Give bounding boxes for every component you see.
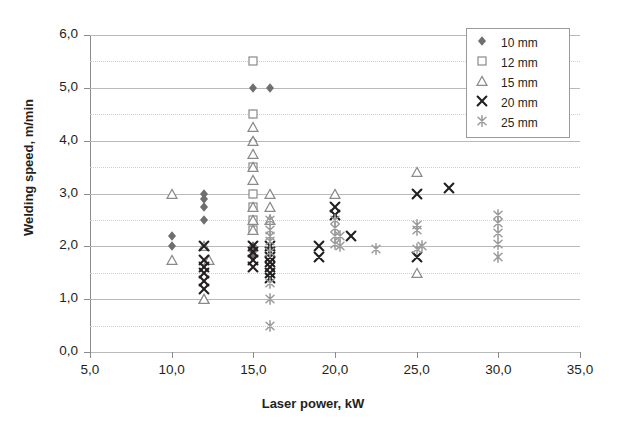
filled-diamond-icon: [475, 34, 495, 52]
x-tick-label: 30,0: [468, 362, 528, 377]
x-tick-mark: [253, 352, 254, 358]
x-tick-mark: [498, 352, 499, 358]
data-point: [202, 253, 216, 267]
asterisk-icon: [475, 114, 495, 132]
legend-item-label: 10 mm: [495, 36, 538, 50]
legend-item-label: 12 mm: [495, 56, 538, 70]
cross-x-icon: [475, 94, 495, 112]
gridline-major: [90, 141, 580, 142]
data-point: [197, 282, 211, 296]
y-axis-title: Welding speed, m/min: [21, 18, 36, 318]
data-point: [263, 229, 277, 243]
gridline-minor: [90, 273, 580, 274]
data-point: [410, 223, 424, 237]
y-tick-label: 2,0: [38, 237, 78, 252]
data-point: [263, 200, 277, 214]
data-point: [246, 223, 260, 237]
x-tick-label: 20,0: [305, 362, 365, 377]
legend-item: 10 mm: [467, 33, 569, 53]
data-point: [197, 200, 211, 214]
data-point: [328, 200, 342, 214]
y-tick-mark: [84, 194, 90, 195]
y-tick-label: 4,0: [38, 132, 78, 147]
gridline-major: [90, 194, 580, 195]
y-tick-mark: [84, 35, 90, 36]
data-point: [333, 229, 347, 243]
gridline-major: [90, 299, 580, 300]
gridline-major: [90, 246, 580, 247]
open-triangle-icon: [475, 74, 495, 92]
open-square-icon: [475, 54, 495, 72]
data-point: [165, 253, 179, 267]
data-point: [410, 250, 424, 264]
data-point: [246, 250, 260, 264]
data-point: [328, 229, 342, 243]
y-tick-label: 6,0: [38, 26, 78, 41]
data-point: [344, 229, 358, 243]
data-point: [197, 274, 211, 288]
y-tick-mark: [84, 88, 90, 89]
legend-item-label: 15 mm: [495, 76, 538, 90]
data-point: [328, 221, 342, 235]
x-tick-label: 25,0: [387, 362, 447, 377]
data-point: [312, 250, 326, 264]
scatter-chart: 0,01,02,03,04,05,06,0 5,010,015,020,025,…: [0, 0, 626, 429]
data-point: [165, 229, 179, 243]
legend-item: 20 mm: [467, 93, 569, 113]
data-point: [246, 147, 260, 161]
data-point: [369, 242, 383, 256]
x-tick-label: 5,0: [60, 362, 120, 377]
x-tick-mark: [580, 352, 581, 358]
gridline-minor: [90, 167, 580, 168]
x-tick-label: 15,0: [223, 362, 283, 377]
data-point: [491, 237, 505, 251]
x-axis-title: Laser power, kW: [0, 396, 626, 411]
x-tick-label: 35,0: [550, 362, 610, 377]
legend-item: 12 mm: [467, 53, 569, 73]
x-tick-label: 10,0: [142, 362, 202, 377]
data-point: [263, 250, 277, 264]
data-point: [246, 253, 260, 267]
x-tick-mark: [335, 352, 336, 358]
y-tick-label: 3,0: [38, 185, 78, 200]
data-point: [246, 200, 260, 214]
data-point: [328, 237, 342, 251]
data-point: [491, 226, 505, 240]
y-tick-label: 0,0: [38, 343, 78, 358]
legend-item: 15 mm: [467, 73, 569, 93]
data-point: [246, 223, 260, 237]
legend-item-label: 20 mm: [495, 96, 538, 110]
x-tick-mark: [417, 352, 418, 358]
data-point: [410, 242, 424, 256]
y-tick-label: 1,0: [38, 290, 78, 305]
legend-item-label: 25 mm: [495, 116, 538, 130]
legend-item: 25 mm: [467, 113, 569, 133]
y-tick-mark: [84, 246, 90, 247]
data-point: [263, 255, 277, 269]
x-tick-mark: [90, 352, 91, 358]
y-tick-mark: [84, 299, 90, 300]
legend: 10 mm12 mm15 mm20 mm25 mm: [466, 28, 570, 138]
x-tick-mark: [172, 352, 173, 358]
data-point: [246, 173, 260, 187]
data-point: [491, 250, 505, 264]
data-point: [263, 223, 277, 237]
gridline-minor: [90, 326, 580, 327]
data-point: [246, 200, 260, 214]
data-point: [246, 120, 260, 134]
y-tick-mark: [84, 141, 90, 142]
data-point: [491, 216, 505, 230]
gridline-minor: [90, 220, 580, 221]
y-tick-label: 5,0: [38, 79, 78, 94]
data-point: [263, 276, 277, 290]
y-tick-mark: [84, 352, 90, 353]
data-point: [197, 253, 211, 267]
